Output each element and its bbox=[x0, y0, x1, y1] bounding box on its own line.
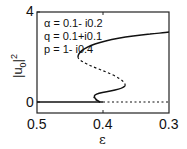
legend-q: q = 0.1+i0.1 bbox=[44, 31, 102, 42]
legend-p: p = 1- i0.4 bbox=[44, 44, 93, 55]
x-tick-0.3: 0.3 bbox=[159, 117, 178, 131]
lower-stable-branch bbox=[94, 86, 125, 102]
y-tick-4: 4 bbox=[26, 4, 34, 18]
bifurcation-chart: 4 0 0.5 0.4 0.3 ε |u0|2 α = 0.1- i0.2 q … bbox=[0, 0, 187, 149]
middle-unstable-branch bbox=[78, 57, 125, 86]
x-tick-0.5: 0.5 bbox=[27, 117, 46, 131]
x-axis-label: ε bbox=[99, 132, 106, 147]
y-axis-label: |u0|2 bbox=[9, 54, 28, 78]
x-tick-0.4: 0.4 bbox=[93, 117, 112, 131]
legend-alpha: α = 0.1- i0.2 bbox=[44, 18, 103, 29]
y-tick-0: 0 bbox=[26, 95, 34, 109]
